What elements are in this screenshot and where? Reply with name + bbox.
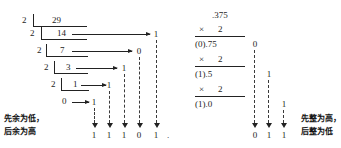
multiply-bar-3 (195, 96, 245, 97)
result-digit-left-2: 1 (105, 131, 113, 140)
divisor-row-2: 2 (30, 29, 35, 38)
remainder-arrow-3 (72, 51, 132, 52)
remainder-digit-6: 1 (90, 98, 98, 107)
result-digit-left-3: 1 (120, 131, 128, 140)
product-2: (1).5 (195, 70, 212, 79)
right-multiplication-panel: .375 × 2 (0).75 0 × 2 (1).5 1 × 2 (1).0 … (175, 0, 336, 148)
fraction-operand: .375 (212, 11, 228, 20)
dropline-left-5 (156, 40, 157, 123)
remainder-arrow-4 (76, 68, 117, 69)
carry-digit-3: 1 (280, 100, 288, 109)
left-division-panel: 2 29 2 14 1 2 7 0 2 3 1 2 1 1 0 1 (0, 0, 175, 148)
dividend-row-3: 7 (60, 46, 65, 55)
result-radix-point: . (164, 131, 172, 140)
multiply-symbol-2: × (199, 55, 204, 64)
dropline-left-1 (94, 108, 95, 123)
remainder-digit-4: 1 (120, 64, 128, 73)
product-3: (1).0 (195, 100, 212, 109)
multiplier-1: 2 (218, 25, 223, 34)
result-digit-right-1: 0 (251, 131, 259, 140)
multiply-symbol-1: × (199, 25, 204, 34)
right-caption-line2: 后整为低 (301, 126, 333, 137)
remainder-arrow-5 (81, 85, 106, 86)
divisor-row-1: 2 (22, 16, 27, 25)
ladder-hrule-5 (61, 90, 89, 91)
dividend-row-4: 3 (66, 63, 71, 72)
result-digit-right-3: 1 (280, 131, 288, 140)
multiply-bar-2 (195, 66, 245, 67)
ladder-hrule-2 (41, 39, 87, 40)
left-caption-line1: 先余为低， (4, 113, 44, 124)
dropline-right-2 (268, 80, 269, 123)
dividend-row-2: 14 (57, 29, 66, 38)
dropline-left-3 (124, 74, 125, 123)
dividend-row-6: 0 (62, 97, 67, 106)
multiply-bar-1 (195, 36, 245, 37)
ladder-hrule-3 (46, 56, 88, 57)
dividend-row-5: 1 (73, 80, 78, 89)
result-digit-right-2: 1 (265, 131, 273, 140)
remainder-digit-5: 1 (105, 81, 113, 90)
remainder-digit-3: 0 (135, 47, 143, 56)
remainder-arrow-2 (72, 34, 150, 35)
dividend-row-1: 29 (52, 16, 61, 25)
multiplier-3: 2 (218, 85, 223, 94)
product-1: (0).75 (195, 40, 217, 49)
ladder-hrule-4 (54, 73, 88, 74)
divisor-row-4: 2 (44, 63, 49, 72)
multiply-symbol-3: × (199, 85, 204, 94)
multiplier-2: 2 (218, 55, 223, 64)
right-caption-line1: 先整为高， (301, 113, 341, 124)
dropline-right-3 (283, 110, 284, 123)
divisor-row-3: 2 (37, 46, 42, 55)
dropline-left-4 (139, 57, 140, 123)
result-digit-left-5: 1 (152, 131, 160, 140)
remainder-arrow-6 (72, 102, 89, 103)
result-digit-left-4: 0 (135, 131, 143, 140)
divisor-row-5: 2 (51, 80, 56, 89)
remainder-digit-2: 1 (152, 30, 160, 39)
carry-digit-1: 0 (251, 40, 259, 49)
result-digit-left-1: 1 (90, 131, 98, 140)
dropline-right-1 (254, 50, 255, 123)
dropline-left-2 (109, 91, 110, 123)
carry-digit-2: 1 (265, 70, 273, 79)
left-caption-line2: 后余为高 (4, 126, 36, 137)
